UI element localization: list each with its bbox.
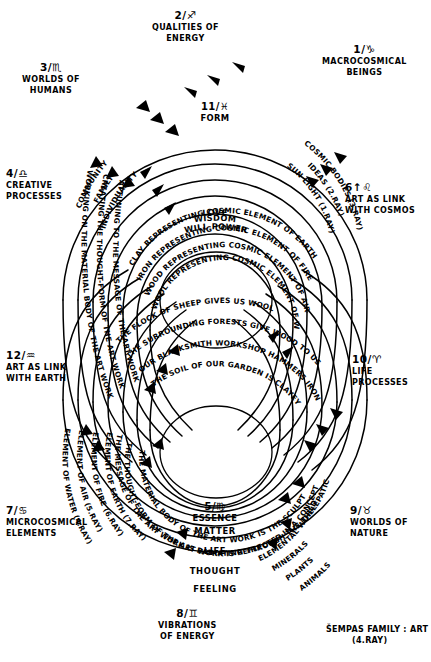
corner-label-line: HUMANS [22, 86, 80, 97]
axis-label-form-name: FORM [160, 113, 270, 124]
corner-label-art-as-link-with-cosmos: 6↑♌ART AS LINKWITH COSMOS [345, 180, 415, 217]
axis-label-form: 11/♓ FORM [160, 100, 270, 124]
corner-label-line: VIBRATIONS [158, 621, 217, 632]
axis-label-form-code: 11/♓ [160, 100, 270, 113]
corner-label-line: NATURE [350, 529, 408, 540]
corner-label-line: CREATIVE [6, 181, 62, 192]
corner-label-line: ENERGY [152, 34, 219, 45]
corner-label-line: WORLDS OF [22, 75, 80, 86]
bottom-word-feeling: FEELING [178, 584, 252, 594]
corner-label-macrocosmical-beings: 1/♑MACROCOSMICALBEINGS [322, 42, 407, 79]
corner-label-microcosmical-elements: 7/♋MICROCOSMICALELEMENTS [6, 503, 88, 540]
corner-label-qualities-of-energy: 2/♐QUALITIES OFENERGY [152, 8, 219, 45]
corner-label-code: 4/♎ [6, 166, 62, 180]
corner-label-line: MACROCOSMICAL [322, 57, 407, 68]
bottom-word-matter: MATTER [178, 526, 252, 536]
corner-label-line: WORLDS OF [350, 518, 408, 529]
corner-label-line: ART AS LINK [345, 195, 415, 206]
corner-label-code: 7/♋ [6, 503, 88, 517]
corner-label-code: 9/♉ [350, 503, 408, 517]
axis-label-essence: 5/♍ ESSENCE [160, 500, 270, 524]
corner-label-life-processes: 10/♈LIFEPROCESSES [352, 352, 408, 389]
corner-label-code: 8/♊ [158, 606, 217, 620]
axis-label-essence-name: ESSENCE [160, 513, 270, 524]
axis-label-essence-code: 5/♍ [160, 500, 270, 513]
signature-block: ŠEMPAS FAMILY : ART (4.RAY) [326, 624, 428, 646]
corner-label-creative-processes: 4/♎CREATIVEPROCESSES [6, 166, 62, 203]
bottom-word-life: LIFE [178, 546, 252, 556]
label-soil-of-garden: THE SOIL OF OUR GARDEN IS CLAYEY [149, 359, 303, 407]
corner-label-line: ART AS LINK [6, 363, 66, 374]
diagram-canvas: LOVE WISDOM WILL POWER COMMUNITY FAMILY … [0, 0, 431, 662]
corner-label-vibrations-of-energy: 8/♊VIBRATIONSOF ENERGY [158, 606, 217, 643]
corner-label-line: OF ENERGY [158, 632, 217, 643]
corner-label-line: MICROCOSMICAL [6, 518, 88, 529]
corner-label-code: 10/♈ [352, 352, 408, 366]
corner-label-code: 12/♒ [6, 348, 66, 362]
corner-label-art-as-link-with-earth: 12/♒ART AS LINKWITH EARTH [6, 348, 66, 385]
corner-label-code: 2/♐ [152, 8, 219, 22]
signature-line-2: (4.RAY) [326, 635, 428, 646]
corner-label-code: 3/♏ [22, 60, 80, 74]
corner-label-worlds-of-humans: 3/♏WORLDS OFHUMANS [22, 60, 80, 97]
corner-label-line: PROCESSES [6, 192, 62, 203]
corner-label-line: PROCESSES [352, 378, 408, 389]
corner-label-line: LIFE [352, 367, 408, 378]
corner-label-line: ELEMENTS [6, 529, 88, 540]
corner-label-code: 1/♑ [322, 42, 407, 56]
corner-label-line: BEINGS [322, 68, 407, 79]
bottom-word-thought: THOUGHT [178, 566, 252, 576]
corner-label-worlds-of-nature: 9/♉WORLDS OFNATURE [350, 503, 408, 540]
corner-label-code: 6↑♌ [345, 180, 415, 194]
corner-label-line: WITH EARTH [6, 374, 66, 385]
corner-label-line: WITH COSMOS [345, 206, 415, 217]
signature-line-1: ŠEMPAS FAMILY : ART [326, 625, 428, 634]
corner-label-line: QUALITIES OF [152, 23, 219, 34]
